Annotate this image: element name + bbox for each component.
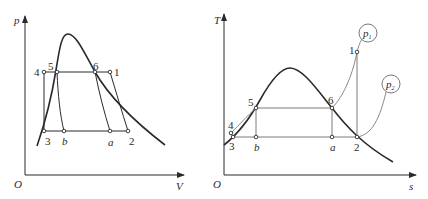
ts-x-label: s	[409, 180, 413, 192]
ts-point-3	[231, 135, 235, 139]
ts-label-4: 4	[228, 119, 234, 131]
ts-isobar-p1-liquid	[231, 108, 256, 133]
ts-label-3: 3	[229, 140, 235, 152]
pv-point-5	[55, 70, 59, 74]
pv-point-a	[108, 129, 112, 133]
ts-point-1	[355, 50, 359, 54]
ts-isobar-p1-superheat	[332, 38, 363, 108]
pv-point-3	[42, 129, 46, 133]
pv-label-4: 4	[34, 66, 40, 78]
diagram-canvas: p V O 4 5 6 1 3 b a 2	[0, 0, 428, 199]
pv-label-6: 6	[93, 60, 99, 72]
ts-isobar-label-p2: p2	[382, 75, 400, 93]
pv-label-5: 5	[48, 60, 54, 72]
pv-line-1-2	[110, 72, 128, 131]
ts-point-6	[330, 106, 334, 110]
ts-isobar-label-p1: p1	[359, 24, 377, 42]
ts-saturation-dome	[224, 68, 393, 162]
pv-label-a: a	[108, 136, 114, 148]
ts-isobar-p2-superheat	[357, 92, 386, 137]
pv-origin-label: O	[14, 178, 22, 190]
ts-point-a	[330, 135, 334, 139]
pv-diagram: p V O 4 5 6 1 3 b a 2	[13, 14, 184, 192]
pv-label-1: 1	[114, 66, 120, 78]
pv-line-6-a	[95, 72, 110, 131]
pv-saturation-dome	[37, 34, 165, 146]
ts-point-b	[254, 135, 258, 139]
pv-label-2: 2	[129, 135, 135, 147]
ts-label-2: 2	[354, 141, 360, 153]
ts-label-6: 6	[328, 94, 334, 106]
ts-origin-label: O	[213, 178, 221, 190]
ts-label-1: 1	[349, 44, 355, 56]
pv-point-1	[108, 70, 112, 74]
pv-point-4	[42, 70, 46, 74]
ts-point-2	[355, 135, 359, 139]
ts-label-b: b	[254, 141, 260, 153]
pv-line-5-b	[57, 72, 64, 131]
pv-x-label: V	[176, 180, 184, 192]
pv-y-label: p	[13, 14, 20, 26]
pv-point-2	[126, 129, 130, 133]
ts-label-a: a	[330, 141, 336, 153]
pv-label-b: b	[62, 135, 68, 147]
ts-label-5: 5	[248, 96, 254, 108]
pv-point-b	[62, 129, 66, 133]
ts-y-label: T	[214, 14, 221, 26]
pv-label-3: 3	[45, 135, 51, 147]
ts-diagram: T s O p1	[213, 14, 416, 192]
ts-point-5	[254, 106, 258, 110]
ts-point-4	[229, 131, 233, 135]
